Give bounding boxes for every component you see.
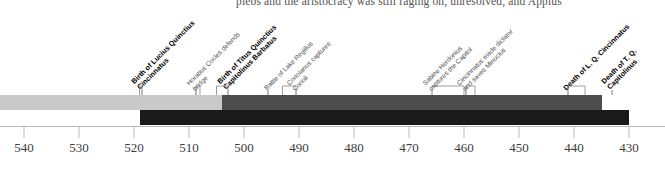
axis-tick-label: 450 [509,140,529,156]
axis-tick-label: 440 [564,140,584,156]
axis-tick-label: 540 [14,140,34,156]
timeline-axis: 540530520510500490480470460450440430 [0,0,665,169]
axis-tick-label: 500 [234,140,254,156]
axis-tick-label: 480 [344,140,364,156]
axis-tick-label: 530 [69,140,89,156]
axis-tick-label: 490 [289,140,309,156]
axis-tick-label: 430 [619,140,639,156]
axis-tick-label: 510 [179,140,199,156]
axis-tick-label: 520 [124,140,144,156]
axis-tick-label: 460 [454,140,474,156]
axis-tick-label: 470 [399,140,419,156]
